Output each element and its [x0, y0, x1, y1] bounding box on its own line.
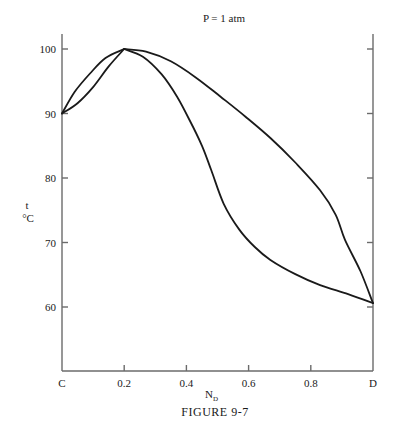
y-tick-label: 100 [40, 43, 57, 55]
x-tick-label: 0.6 [242, 377, 256, 389]
x-tick-label: 0.4 [180, 377, 194, 389]
liquid-curve [124, 49, 373, 303]
chart: 60708090100C0.20.40.60.8D P = 1 atm t °C… [0, 0, 397, 437]
y-axis-label-symbol: t [25, 199, 28, 211]
vapor-curve [124, 49, 373, 303]
chart-title: P = 1 atm [203, 12, 246, 24]
y-tick-label: 60 [45, 301, 57, 313]
x-tick-label: C [58, 377, 65, 389]
y-axis-label-unit: °C [22, 212, 34, 224]
x-tick-label: D [369, 377, 377, 389]
x-axis-label-subscript: D [213, 395, 218, 403]
y-tick-label: 80 [45, 172, 57, 184]
x-axis-label-symbol: N [205, 388, 213, 400]
y-axis-label: t °C [22, 199, 34, 224]
y-tick-label: 70 [45, 237, 57, 249]
x-tick-label: 0.2 [117, 377, 131, 389]
series-group [62, 49, 373, 303]
x-tick-label: 0.8 [304, 377, 318, 389]
liquid-curve [62, 49, 124, 114]
x-axis-label: N D [205, 388, 218, 403]
figure-caption: FIGURE 9-7 [181, 405, 248, 419]
y-tick-label: 90 [45, 108, 57, 120]
